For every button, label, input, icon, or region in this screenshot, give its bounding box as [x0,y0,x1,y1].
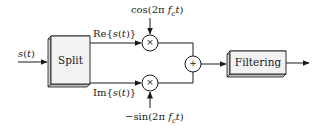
iq-modulator-diagram: s(t) Split Filtering Re{s(t)} Im{s(t)} c… [0,0,325,132]
multiply-top-icon: × [144,38,156,47]
im-t: t [122,87,126,98]
cos-post: ) [179,4,183,15]
top-to-adder-line [158,43,193,56]
im-suffix: } [130,87,136,98]
sin-carrier-label: −sin(2π fct) [125,112,184,125]
sin-post: ) [180,111,184,122]
bottom-to-adder-line [158,72,193,83]
re-t: t [122,28,126,39]
filtering-label: Filtering [230,57,286,68]
multiply-bottom-icon: × [144,78,156,87]
sin-pre: −sin(2π [125,111,168,122]
cos-pre: cos(2π [131,4,168,15]
re-suffix: } [130,28,136,39]
re-prefix: Re{ [93,28,113,39]
re-sig: s [113,28,118,39]
re-branch-label: Re{s(t)} [93,29,136,39]
split-label: Split [51,55,90,66]
input-t: t [27,48,31,59]
im-branch-label: Im{s(t)} [93,88,136,98]
input-arg: (t) [23,48,35,59]
im-sig: s [113,87,118,98]
im-prefix: Im{ [93,87,113,98]
add-icon: + [187,59,199,68]
input-label: s(t) [18,49,35,59]
cos-carrier-label: cos(2π fct) [131,5,183,18]
